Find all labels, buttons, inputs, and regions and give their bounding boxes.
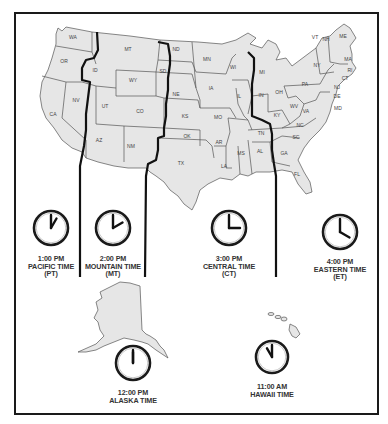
mountain-zone-abbr: (MT) [85, 270, 141, 278]
pacific-clock-icon [34, 211, 68, 245]
state-label-mt: MT [124, 46, 131, 52]
eastern-clock-icon [323, 215, 357, 249]
state-label-me: ME [339, 33, 347, 39]
state-label-ia: IA [209, 85, 214, 91]
eastern-zone-abbr: (ET) [314, 273, 366, 281]
pacific-zone-abbr: (PT) [28, 270, 74, 278]
state-label-ca: CA [50, 111, 58, 117]
state-label-ut: UT [102, 103, 109, 109]
central-clock-icon [212, 211, 246, 245]
alaska-zone-label: 12:00 PM ALASKA TIME [109, 389, 157, 404]
state-label-ms: MS [237, 150, 245, 156]
alaska-outline [78, 282, 168, 358]
state-label-nd: ND [172, 46, 180, 52]
state-label-in: IN [259, 92, 264, 98]
state-label-oh: OH [275, 89, 283, 95]
hawaii-zone-label: 11:00 AM HAWAII TIME [250, 383, 294, 398]
state-label-va: VA [303, 108, 310, 114]
state-label-wi: WI [230, 64, 236, 70]
state-label-tx: TX [178, 160, 185, 166]
state-label-pa: PA [302, 81, 309, 87]
pacific-zone-label: 1:00 PM PACIFIC TIME (PT) [28, 255, 74, 278]
eastern-zone-label: 4:00 PM EASTERN TIME (ET) [314, 258, 366, 281]
state-label-wv: WV [290, 103, 299, 109]
continental-us [40, 24, 356, 210]
state-label-nh: NH [322, 36, 330, 42]
state-label-co: CO [136, 108, 144, 114]
central-zone-abbr: (CT) [203, 270, 255, 278]
state-label-ri: RI [348, 67, 353, 73]
state-label-al: AL [257, 148, 263, 154]
state-label-ma: MA [344, 56, 352, 62]
time-zone-map: WAORCANVIDMTWYUTCOAZNMNDSDNEKSOKTXMNIAMO… [0, 0, 388, 424]
state-label-vt: VT [312, 34, 318, 40]
alaska-clock-icon [116, 346, 150, 380]
state-label-sc: SC [293, 134, 300, 140]
central-zone-label: 3:00 PM CENTRAL TIME (CT) [203, 255, 255, 278]
clocks [34, 211, 357, 380]
state-label-ok: OK [183, 133, 191, 139]
state-label-nm: NM [127, 143, 135, 149]
state-label-wa: WA [69, 34, 78, 40]
state-label-mn: MN [203, 56, 211, 62]
alaska-zone-name: ALASKA TIME [109, 397, 157, 405]
state-label-md: MD [334, 105, 342, 111]
state-label-la: LA [221, 163, 228, 169]
state-label-mi: MI [259, 69, 265, 75]
state-label-de: DE [334, 93, 342, 99]
state-label-id: ID [93, 67, 98, 73]
state-label-fl: FL [294, 171, 300, 177]
state-label-nc: NC [296, 122, 304, 128]
state-label-ky: KY [274, 112, 281, 118]
hawaii-zone-name: HAWAII TIME [250, 391, 294, 399]
state-label-ct: CT [342, 75, 349, 81]
state-label-wy: WY [129, 77, 138, 83]
state-label-mo: MO [214, 114, 222, 120]
state-label-ne: NE [173, 91, 181, 97]
state-label-nj: NJ [334, 84, 341, 90]
state-label-tn: TN [258, 130, 265, 136]
state-label-nv: NV [73, 97, 81, 103]
hawaii-clock-icon [256, 341, 288, 373]
hawaii-islands [268, 313, 300, 339]
state-label-az: AZ [96, 137, 102, 143]
state-label-ny: NY [314, 62, 322, 68]
state-label-ks: KS [182, 113, 189, 119]
mountain-zone-label: 2:00 PM MOUNTAIN TIME (MT) [85, 255, 141, 278]
state-label-sd: SD [160, 68, 167, 74]
state-label-il: IL [237, 93, 241, 99]
state-label-or: OR [60, 58, 68, 64]
state-label-ga: GA [280, 150, 288, 156]
mountain-clock-icon [96, 211, 130, 245]
state-label-ar: AR [216, 139, 223, 145]
